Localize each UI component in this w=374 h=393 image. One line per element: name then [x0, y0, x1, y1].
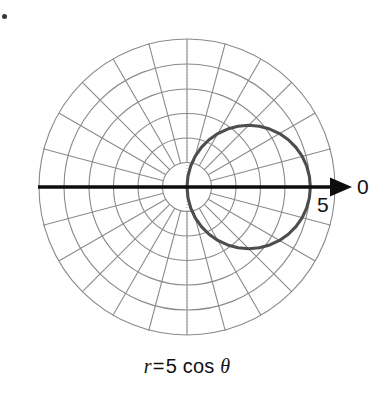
caption-variable-r: r [144, 355, 152, 377]
radius-tick-label-five: 5 [317, 194, 329, 215]
polar-axis-label-zero: 0 [357, 176, 369, 197]
caption-equals-sign: = [152, 355, 166, 377]
caption-expression: 5 cos [166, 355, 215, 377]
figure-caption: r=5 cos θ [0, 355, 374, 378]
caption-variable-theta: θ [220, 355, 230, 377]
scan-speck-artifact [2, 14, 7, 19]
